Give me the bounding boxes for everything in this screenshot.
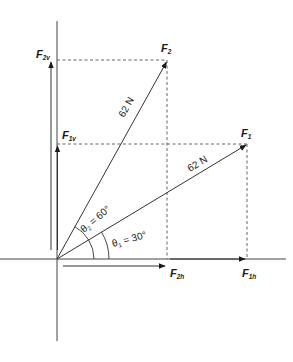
- theta2-label: θ2 = 60°: [78, 203, 113, 235]
- theta1-label: θ1 = 30°: [111, 229, 148, 250]
- diagram-canvas: 62 N 62 N θ2 = 60° θ1 = 30° F2 F1 F2v F1…: [0, 0, 293, 362]
- f1h-label: F1h: [242, 267, 256, 280]
- f1v-label: F1v: [62, 129, 76, 142]
- svg-text:θ2 = 60°: θ2 = 60°: [78, 203, 113, 235]
- force-diagram: 62 N 62 N θ2 = 60° θ1 = 30° F2 F1 F2v F1…: [0, 0, 293, 362]
- f2h-label: F2h: [170, 267, 184, 280]
- f2-magnitude-label: 62 N: [116, 95, 136, 119]
- vector-f2-arrow: [57, 62, 167, 259]
- f1-magnitude-label: 62 N: [185, 153, 209, 173]
- f2v-label: F2v: [36, 48, 50, 61]
- angle-arc-theta1-outer: [89, 240, 94, 259]
- f2-label: F2: [161, 42, 172, 55]
- angle-arc-theta1: [102, 232, 110, 259]
- f1-label: F1: [241, 127, 252, 140]
- vector-f1-arrow: [57, 145, 246, 259]
- svg-text:θ1 = 30°: θ1 = 30°: [111, 229, 148, 250]
